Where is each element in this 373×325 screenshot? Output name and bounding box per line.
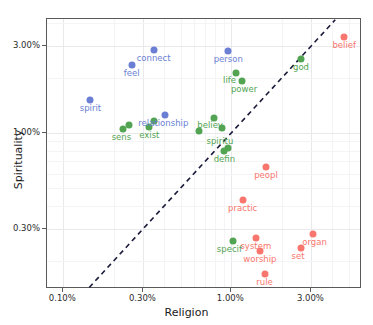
x-tick-label: 3.00% bbox=[297, 293, 324, 303]
gridline-x-minor bbox=[114, 19, 115, 287]
x-tick bbox=[62, 288, 63, 292]
data-point-label: belief bbox=[332, 41, 356, 50]
data-point-label: worship bbox=[243, 255, 276, 264]
gridline-y-minor bbox=[47, 78, 360, 79]
gridline-y-minor bbox=[47, 141, 360, 142]
y-tick bbox=[42, 132, 46, 133]
gridline-x-minor bbox=[332, 19, 333, 287]
gridline-y-minor bbox=[47, 261, 360, 262]
data-point-label: god bbox=[293, 63, 309, 72]
chart-title bbox=[0, 0, 373, 13]
data-point-label: spiritu bbox=[207, 137, 234, 146]
gridline-y-minor bbox=[47, 188, 360, 189]
x-tick-label: 1.00% bbox=[217, 293, 244, 303]
gridline-y-minor bbox=[47, 206, 360, 207]
data-point-label: exist bbox=[139, 131, 159, 140]
gridline-x-minor bbox=[282, 19, 283, 287]
gridline-x-major bbox=[63, 19, 64, 287]
gridline-x-minor bbox=[194, 19, 195, 287]
data-point-label: sens bbox=[112, 133, 131, 142]
data-point-label: rule bbox=[256, 278, 272, 287]
gridline-x-minor bbox=[205, 19, 206, 287]
data-point-label: practic bbox=[228, 204, 257, 213]
data-point-label: system bbox=[240, 242, 271, 251]
y-tick bbox=[42, 45, 46, 46]
gridline-y-major bbox=[47, 133, 360, 134]
gridline-y-major bbox=[47, 46, 360, 47]
data-point-label: power bbox=[231, 85, 257, 94]
gridline-y-minor bbox=[47, 161, 360, 162]
chart-root: spiritfeelconnectrelationshippersonsense… bbox=[0, 0, 373, 325]
gridline-y-minor bbox=[47, 23, 360, 24]
data-point-label: believ bbox=[197, 121, 223, 130]
x-tick-label: 0.10% bbox=[49, 293, 76, 303]
data-point-label: organ bbox=[302, 238, 327, 247]
data-point-label: relationship bbox=[138, 119, 188, 128]
y-tick bbox=[42, 228, 46, 229]
x-axis-title: Religion bbox=[0, 306, 373, 319]
data-point-label: defin bbox=[214, 155, 235, 164]
x-tick-label: 0.30% bbox=[129, 293, 156, 303]
data-point-label: person bbox=[214, 55, 243, 64]
data-point-label: specif bbox=[217, 245, 242, 254]
gridline-y-minor bbox=[47, 174, 360, 175]
x-tick bbox=[230, 288, 231, 292]
gridline-y-minor bbox=[47, 151, 360, 152]
y-tick-label: 3.00% bbox=[13, 40, 40, 50]
x-tick bbox=[142, 288, 143, 292]
x-tick bbox=[310, 288, 311, 292]
y-axis-title: Spirituality bbox=[12, 90, 25, 230]
plot-panel: spiritfeelconnectrelationshippersonsense… bbox=[46, 18, 361, 288]
gridline-x-minor bbox=[181, 19, 182, 287]
data-point-label: peopl bbox=[254, 171, 278, 180]
data-point bbox=[125, 122, 132, 129]
data-point-label: set bbox=[292, 252, 305, 261]
gridline-y-major bbox=[47, 229, 360, 230]
data-point-label: spirit bbox=[80, 104, 101, 113]
data-point-label: connect bbox=[137, 54, 171, 63]
data-point-label: feel bbox=[124, 69, 140, 78]
gridline-x-minor bbox=[349, 19, 350, 287]
